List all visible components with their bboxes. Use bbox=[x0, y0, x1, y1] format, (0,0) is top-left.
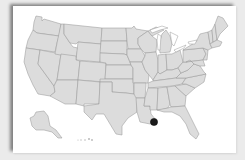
state-wyoming[interactable] bbox=[76, 42, 101, 62]
state-hawaii[interactable] bbox=[77, 138, 93, 141]
lake-michigan bbox=[157, 34, 161, 50]
state-alaska[interactable] bbox=[30, 111, 62, 138]
us-map bbox=[0, 0, 245, 160]
state-new-york[interactable] bbox=[183, 32, 212, 50]
state-new-mexico[interactable] bbox=[76, 80, 100, 106]
state-florida[interactable] bbox=[157, 106, 199, 139]
state-maine[interactable] bbox=[215, 16, 228, 40]
state-iowa[interactable] bbox=[127, 49, 145, 62]
state-north-dakota[interactable] bbox=[101, 28, 127, 41]
location-marker[interactable] bbox=[150, 118, 157, 125]
state-montana[interactable] bbox=[64, 24, 102, 44]
states bbox=[24, 16, 228, 139]
state-kansas[interactable] bbox=[105, 65, 133, 79]
state-arkansas[interactable] bbox=[134, 83, 146, 98]
